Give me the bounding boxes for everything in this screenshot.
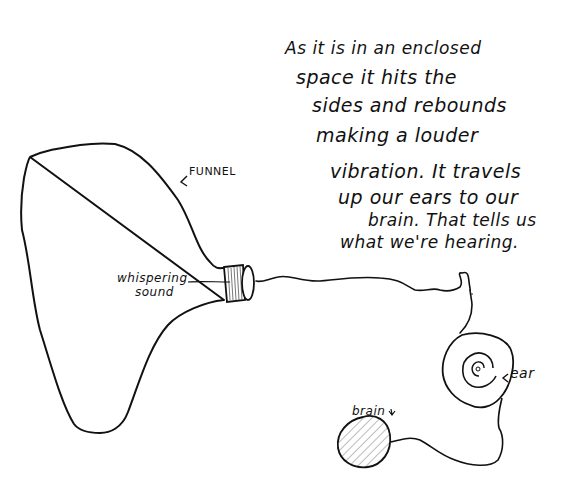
sound-path-line (256, 272, 472, 333)
funnel-arrow (181, 176, 187, 186)
ear-label: ear (510, 366, 534, 380)
sound-label: sound (135, 286, 174, 298)
explanation-line-7: brain. That tells us (368, 212, 537, 229)
funnel-label: FUNNEL (189, 166, 236, 177)
brain-label: brain (352, 405, 385, 417)
brain-arrow (389, 409, 395, 415)
whispering-label: whispering (117, 272, 188, 284)
explanation-line-8: what we're hearing. (340, 234, 519, 251)
explanation-line-1: As it is in an enclosed (285, 40, 481, 57)
ear-arrow (503, 374, 508, 382)
ear-shape (443, 333, 513, 407)
diagram-canvas: As it is in an enclosed space it hits th… (0, 0, 562, 498)
explanation-line-4: making a louder (316, 126, 478, 145)
explanation-line-5: vibration. It travels (330, 162, 521, 181)
funnel-shape (21, 143, 224, 433)
ear-to-brain-line (391, 398, 503, 465)
explanation-line-3: sides and rebounds (312, 96, 507, 115)
brain-shape (338, 416, 390, 467)
funnel-neck (224, 265, 254, 302)
explanation-line-6: up our ears to our (338, 188, 518, 207)
explanation-line-2: space it hits the (296, 68, 457, 87)
